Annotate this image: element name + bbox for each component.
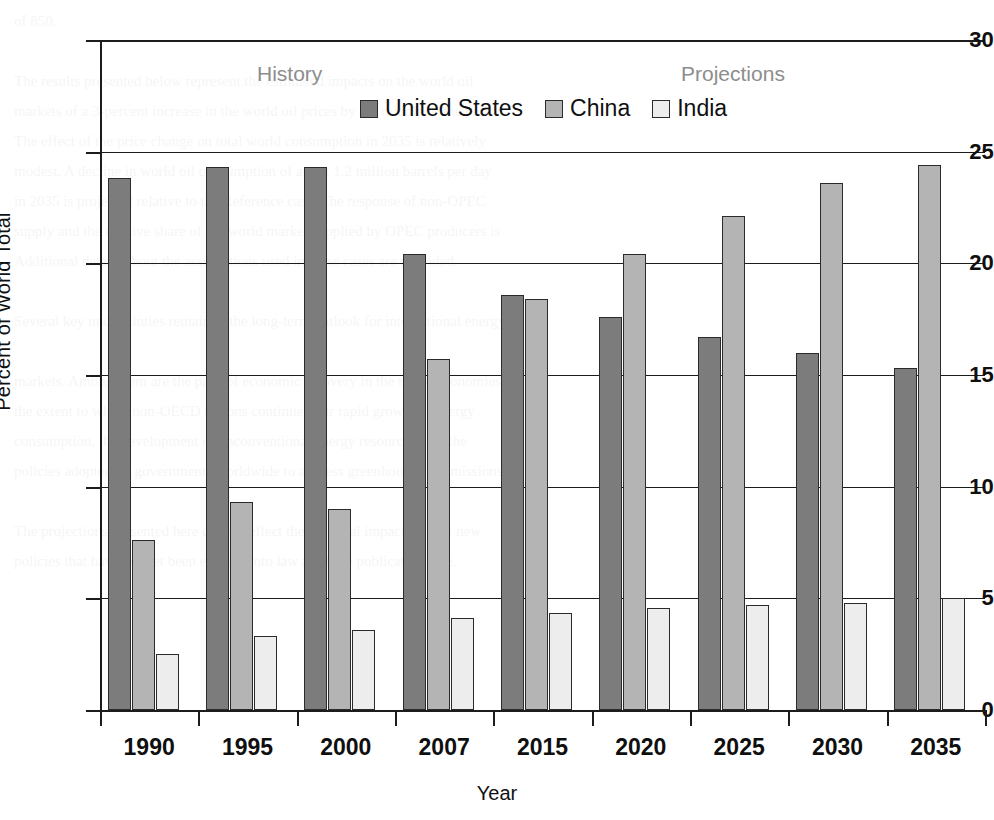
bar-india-1995: [254, 636, 277, 710]
projections-annotation: Projections: [681, 62, 785, 86]
bar-china-2025: [722, 216, 745, 710]
bar-india-2030: [844, 603, 867, 710]
y-tick-mark-10: [86, 487, 100, 489]
bar-united-states-2007: [403, 254, 426, 710]
bar-india-2035: [942, 598, 965, 710]
legend-swatch-india-icon: [652, 100, 670, 118]
bar-united-states-2030: [796, 353, 819, 710]
bar-india-2020: [647, 608, 670, 710]
legend-swatch-china-icon: [545, 100, 563, 118]
bar-china-2020: [623, 254, 646, 710]
bar-china-2015: [525, 299, 548, 710]
bar-china-2035: [918, 165, 941, 710]
x-axis-line: [100, 710, 985, 712]
x-tick-mark-2015: [493, 710, 495, 726]
x-tick-mark-2030: [788, 710, 790, 726]
x-tick-mark-2020: [592, 710, 594, 726]
legend-swatch-united-states-icon: [360, 100, 378, 118]
bar-united-states-2020: [599, 317, 622, 710]
bar-china-2030: [820, 183, 843, 710]
x-tick-mark-2025: [690, 710, 692, 726]
gridline-20: [100, 263, 985, 264]
bar-china-1990: [132, 540, 155, 710]
x-tick-mark-2007: [395, 710, 397, 726]
bar-united-states-2015: [501, 295, 524, 710]
chart-legend: United States China India: [360, 95, 727, 122]
bar-india-1990: [156, 654, 179, 710]
legend-label-china: China: [570, 95, 630, 122]
bar-china-1995: [230, 502, 253, 710]
bar-united-states-2025: [698, 337, 721, 710]
x-tick-mark-2035: [887, 710, 889, 726]
bar-united-states-1995: [206, 167, 229, 710]
y-tick-mark-25: [86, 152, 100, 154]
y-tick-mark-5: [86, 598, 100, 600]
bar-united-states-2000: [304, 167, 327, 710]
legend-label-united-states: United States: [385, 95, 523, 122]
bar-india-2007: [451, 618, 474, 710]
history-annotation: History: [257, 62, 322, 86]
x-tick-mark-1995: [198, 710, 200, 726]
y-tick-label-30: 30: [928, 27, 994, 53]
y-tick-mark-0: [86, 710, 100, 712]
y-tick-mark-15: [86, 375, 100, 377]
x-tick-mark-end: [985, 710, 987, 726]
bar-united-states-2035: [894, 368, 917, 710]
x-tick-label-2035: 2035: [876, 734, 994, 761]
y-tick-label-25: 25: [928, 139, 994, 165]
bar-india-2015: [549, 613, 572, 710]
y-axis-title: Percent of World Total: [0, 97, 15, 527]
legend-item-china: China: [545, 95, 630, 122]
bar-china-2007: [427, 359, 450, 710]
y-axis-line: [100, 40, 102, 712]
x-tick-mark-2000: [297, 710, 299, 726]
legend-label-india: India: [677, 95, 727, 122]
legend-item-india: India: [652, 95, 727, 122]
x-tick-mark-1990: [100, 710, 102, 726]
bar-united-states-1990: [108, 178, 131, 710]
bar-india-2025: [746, 605, 769, 710]
y-tick-mark-20: [86, 263, 100, 265]
bar-india-2000: [352, 630, 375, 710]
gridline-25: [100, 152, 985, 153]
bar-china-2000: [328, 509, 351, 710]
gridline-30: [100, 40, 985, 42]
y-tick-mark-30: [86, 40, 100, 42]
legend-item-united-states: United States: [360, 95, 523, 122]
x-axis-title: Year: [0, 782, 994, 805]
bar-chart: of 850. The results presented below repr…: [0, 0, 994, 820]
